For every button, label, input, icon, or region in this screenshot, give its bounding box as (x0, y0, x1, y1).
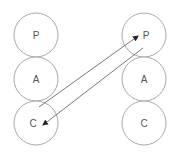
node-label: C (140, 118, 147, 129)
node-label: P (33, 30, 40, 41)
left-node-a: A (14, 57, 58, 101)
node-label: P (143, 30, 150, 41)
right-column: P A C (122, 13, 166, 145)
protocol-diagram: P A C P A C (0, 0, 179, 155)
right-node-a: A (122, 57, 166, 101)
left-column: P A C (14, 13, 58, 145)
right-node-c: C (122, 101, 166, 145)
left-node-c: C (14, 101, 58, 145)
right-node-p: P (122, 13, 166, 57)
node-label: C (29, 118, 36, 129)
node-label: A (141, 74, 148, 85)
node-label: A (33, 74, 40, 85)
left-node-p: P (14, 13, 58, 57)
